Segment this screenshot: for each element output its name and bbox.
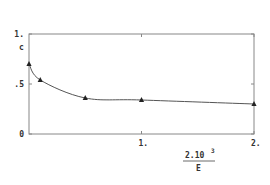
y-axis-label: c <box>19 43 24 52</box>
data-markers <box>26 61 256 106</box>
x-axis-label-numerator: 2.10 <box>185 151 204 160</box>
x-axis-label: 2.10 3 E <box>183 147 215 173</box>
y-tick-label: .5 <box>14 80 24 89</box>
triangle-marker <box>26 61 31 66</box>
y-tick-label: 0 <box>19 130 24 139</box>
x-axis-label-exponent: 3 <box>211 147 215 154</box>
plot-frame <box>29 34 254 134</box>
axis-ticks <box>29 34 254 134</box>
x-tick-label: 1. <box>139 139 149 148</box>
line-chart: 1.2.0.51. c 2.10 3 E <box>0 0 270 185</box>
triangle-marker <box>38 77 43 82</box>
x-axis-label-denominator: E <box>196 164 201 173</box>
tick-labels: 1.2.0.51. <box>14 30 260 148</box>
y-tick-label: 1. <box>14 30 24 39</box>
x-tick-label: 2. <box>251 139 261 148</box>
